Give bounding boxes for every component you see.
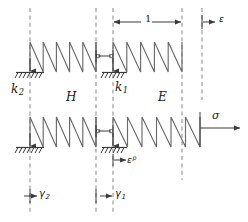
slider-bottom [96,125,113,137]
stress-sigma-label: σ [212,110,220,121]
top-right-spring-E [113,42,182,72]
gamma2-label: γ2 [39,189,50,201]
slider-top [96,50,113,62]
bottom-right-spring-E [113,117,200,147]
stress-sigma-arrow [200,112,240,147]
bottom-left-spring-H [30,117,96,147]
strain-eps-label: ε [219,15,224,24]
modulus-H-label: H [66,91,76,103]
rheological-model-diagram: 1 ε k2 k1 H E σ εp γ2 γ1 [0,0,248,222]
modulus-E-label: E [158,91,167,103]
top-left-spring-H [30,42,96,72]
spring-k1-label: k1 [115,81,128,95]
gamma1-label: γ1 [115,189,126,201]
spring-k2-label: k2 [11,83,24,97]
strain-eps-arrow [202,15,215,29]
ground-support-top-middle [101,58,127,78]
plastic-strain-arrow [113,154,126,166]
plastic-strain-label: εp [127,155,136,165]
gamma2-arrow [24,189,37,203]
gamma1-arrow [96,189,112,203]
ground-support-bottom-middle [101,133,127,153]
dimension-1-label: 1 [145,14,151,24]
